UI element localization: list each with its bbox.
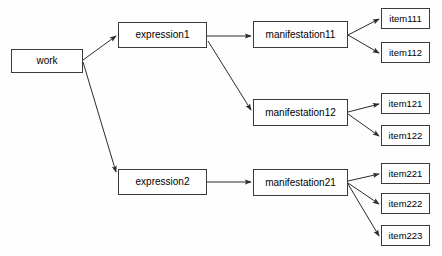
node-label-manifestation21: manifestation21 [265,178,336,188]
node-item121[interactable]: item121 [381,93,430,114]
edge-manifestation11-to-item112 [348,35,379,53]
node-item112[interactable]: item112 [381,42,430,63]
edge-expression1-to-manifestation12 [208,41,251,110]
node-label-manifestation12: manifestation12 [265,108,336,118]
node-expression2[interactable]: expression2 [118,169,207,195]
edge-work-to-expression2 [83,62,116,172]
node-item223[interactable]: item223 [381,225,430,246]
node-label-item122: item122 [389,131,423,141]
node-label-item111: item111 [389,14,421,24]
node-work[interactable]: work [11,49,83,73]
node-label-expression2: expression2 [136,177,190,187]
node-item222[interactable]: item222 [381,193,430,214]
node-expression1[interactable]: expression1 [118,22,207,48]
node-label-manifestation11: manifestation11 [266,30,336,40]
node-manifestation12[interactable]: manifestation12 [253,99,348,126]
edge-manifestation11-to-item111 [348,19,379,35]
node-label-item112: item112 [389,48,422,58]
node-label-expression1: expression1 [136,30,190,40]
edge-manifestation21-to-item222 [348,183,379,204]
node-label-work: work [36,56,57,66]
edge-work-to-expression1 [83,36,116,60]
diagram-edges [0,0,442,256]
node-item111[interactable]: item111 [381,8,430,29]
node-label-item222: item222 [389,199,423,209]
node-item221[interactable]: item221 [381,163,430,184]
node-item122[interactable]: item122 [381,125,430,146]
node-label-item121: item121 [389,99,423,109]
edge-manifestation12-to-item121 [348,104,379,112]
edge-manifestation21-to-item223 [348,184,379,236]
node-label-item223: item223 [389,231,423,241]
node-manifestation11[interactable]: manifestation11 [253,21,348,48]
diagram-canvas: workexpression1expression2manifestation1… [0,0,442,256]
node-manifestation21[interactable]: manifestation21 [253,169,348,196]
node-label-item221: item221 [389,169,423,179]
edge-manifestation12-to-item122 [348,114,379,136]
edge-manifestation21-to-item221 [348,174,379,181]
